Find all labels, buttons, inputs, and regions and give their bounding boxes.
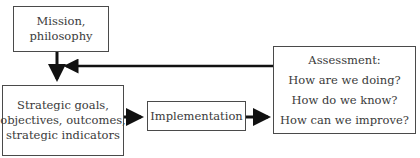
mission-philosophy-node: Mission, philosophy	[13, 6, 109, 52]
node-text: Implementation	[150, 109, 243, 124]
node-text: Mission,	[37, 14, 86, 29]
node-text: philosophy	[29, 29, 92, 44]
node-text: How are we doing?	[288, 70, 400, 90]
implementation-node: Implementation	[147, 101, 246, 131]
node-text: How can we improve?	[280, 110, 409, 130]
assessment-node: Assessment: How are we doing? How do we …	[273, 46, 416, 134]
node-text: Assessment:	[308, 50, 380, 70]
node-text: strategic indicators	[6, 128, 120, 143]
strategic-goals-node: Strategic goals, objectives, outcomes, s…	[2, 85, 124, 156]
node-text: objectives, outcomes,	[0, 113, 126, 128]
node-text: How do we know?	[291, 90, 397, 110]
node-text: Strategic goals,	[17, 98, 109, 113]
